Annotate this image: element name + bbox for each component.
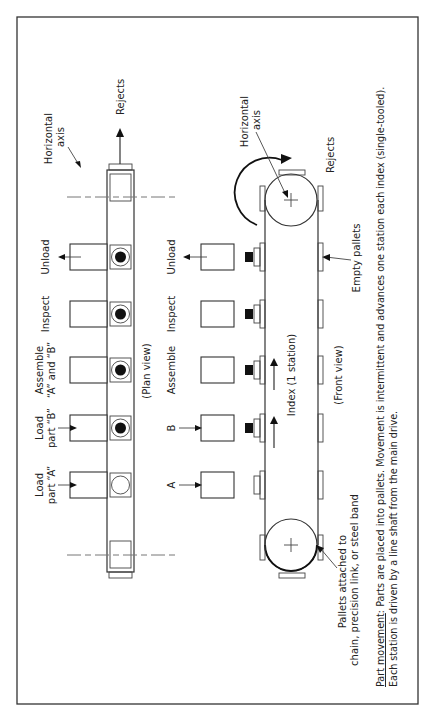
front-station-label: B [166,424,177,431]
front-axis-pointer-head [282,190,288,198]
plan-station: Loadpart “B” [34,408,131,448]
front-rejects-label: Rejects [325,137,336,173]
part-dot [115,252,126,263]
front-part [254,361,260,379]
plan-station-label: Loadpart “A” [34,466,57,504]
pallets-attached-label: Pallets attached to chain, precision lin… [337,494,360,666]
front-station-label: A [166,481,177,488]
plan-rejects-arrow-head [116,128,124,137]
empty-pallets-label: Empty pallets [351,224,362,293]
return-pallet [318,356,323,384]
pallet-right-bottom [318,186,323,211]
pallets-attached-pointer [320,548,337,568]
pallet-left-end [279,573,305,578]
plan-axis-pointer-head [75,161,81,168]
front-station: A [166,471,323,499]
plan-axis-label: Horizontal axis [43,110,66,164]
plan-end-cap-left [109,572,132,578]
plan-end-cap-right [109,164,132,170]
plan-station-label: Unload [40,239,51,274]
unload-arrow-head [58,254,65,260]
plan-station: Unload [40,239,131,274]
plan-station-tool-box [70,357,107,383]
front-pallet [260,471,265,499]
return-pallet [318,471,323,499]
pallet-right-top [260,186,265,211]
part-dot [115,365,126,376]
front-station-tool-box [201,472,234,498]
front-pallet [260,414,265,442]
index-label: Index (1 station) [286,334,297,417]
tool-head [245,309,253,319]
plan-station: Assemble“A” and “B” [34,342,131,398]
plan-station: Inspect [40,296,131,332]
front-station-label: Unload [166,239,177,274]
tool-head [245,252,253,262]
index-arrow-1-head [270,416,278,424]
plan-station: Loadpart “A” [34,466,131,504]
front-station-label: Assemble [166,346,177,394]
tool-head [245,365,253,375]
tool-head [245,423,253,433]
index-arrow-2-head [270,358,278,366]
plan-station-label: Assemble“A” and “B” [34,342,57,398]
front-station: Inspect [166,296,323,332]
part-dot [115,309,126,320]
front-pallet [260,300,265,328]
front-view-caption: (Front view) [333,345,344,404]
part-dot [115,423,126,434]
front-station: B [166,414,323,442]
indexing-conveyor-diagram: Horizontal axis Rejects (Plan view) Load… [0,0,425,720]
caption: Part movement: Parts are placed into pal… [375,87,399,687]
front-pallet [260,243,265,271]
caption-line-2: Each station is driven by a line shaft f… [388,411,399,687]
front-part [254,476,260,494]
caption-heading: Part movement [375,613,386,687]
front-view: Rejects Horizontal axis Index (1 station… [166,93,362,666]
plan-rejects-label: Rejects [115,79,126,115]
plan-station-label: Loadpart “B” [34,408,57,448]
plan-pallet [110,473,131,497]
rotation-arrow-head [281,154,292,164]
plan-view-caption: (Plan view) [141,343,152,398]
front-station-tool-box [201,357,234,383]
front-station-tool-box [201,301,234,327]
return-pallet [318,300,323,328]
plan-station-label: Inspect [40,296,51,332]
front-station-tool-box [201,415,234,441]
plan-view: Horizontal axis Rejects (Plan view) Load… [34,79,176,578]
front-pallet [260,356,265,384]
front-part [254,248,260,266]
front-part [254,305,260,323]
rotation-arrow [235,158,282,225]
unload-arrow-head [183,254,190,260]
front-station: Assemble [166,346,323,394]
front-part [254,419,260,437]
front-station: Unload [166,239,323,274]
return-pallet [318,414,323,442]
caption-line-1: Part movement: Parts are placed into pal… [375,87,386,687]
front-station-label: Inspect [166,296,177,332]
plan-station-tool-box [70,301,107,327]
part-empty-icon [112,476,130,494]
front-axis-label: Horizontal axis [239,93,262,147]
